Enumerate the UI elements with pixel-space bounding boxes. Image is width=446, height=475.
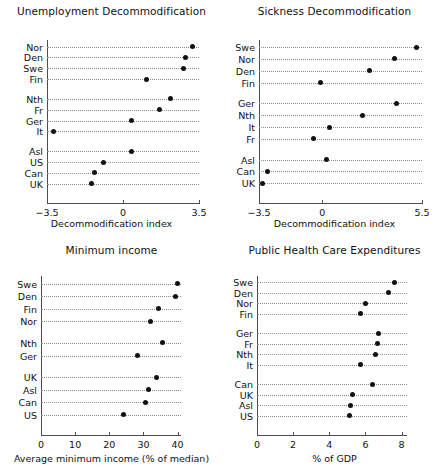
- grid-row: US: [47, 162, 199, 163]
- data-point-den: [367, 68, 372, 73]
- data-point-uk: [350, 392, 355, 397]
- panel-title: Public Health Care Expenditures: [223, 244, 446, 257]
- data-point-can: [265, 169, 270, 174]
- x-tick: [109, 432, 110, 436]
- grid-row: Fin: [259, 83, 422, 84]
- row-label-us: US: [240, 412, 253, 422]
- x-tick: [329, 432, 330, 436]
- grid-row: Den: [47, 57, 199, 58]
- row-label-nor: Nor: [238, 55, 255, 65]
- grid-row: US: [41, 415, 181, 416]
- data-point-uk: [154, 375, 159, 380]
- grid-row: Fr: [259, 139, 422, 140]
- data-point-it: [327, 125, 332, 130]
- x-tick: [322, 200, 323, 204]
- grid-row: Nor: [259, 59, 422, 60]
- x-tick-label: 4: [326, 439, 332, 450]
- data-point-asl: [146, 387, 151, 392]
- row-label-fr: Fr: [244, 340, 253, 350]
- y-axis-line: [47, 40, 48, 204]
- x-axis-line: [259, 203, 422, 204]
- data-point-swe: [181, 66, 186, 71]
- row-label-can: Can: [237, 167, 255, 177]
- row-label-us: US: [30, 158, 43, 168]
- row-label-asl: Asl: [23, 386, 37, 396]
- row-label-nor: Nor: [26, 43, 43, 53]
- grid-row: Nth: [47, 99, 199, 100]
- x-tick: [75, 432, 76, 436]
- grid-row: Nor: [47, 47, 199, 48]
- data-point-fin: [144, 77, 149, 82]
- x-tick-label: 6: [362, 439, 368, 450]
- row-label-fin: Fin: [30, 75, 43, 85]
- data-point-nth: [360, 113, 365, 118]
- panel-title: Sickness Decommodification: [223, 5, 446, 18]
- grid-row: Asl: [47, 151, 199, 152]
- y-axis-line: [259, 40, 260, 204]
- panel-title: Minimum income: [0, 244, 223, 257]
- data-point-ger: [135, 353, 140, 358]
- data-point-can: [92, 170, 97, 175]
- data-point-fin: [156, 306, 161, 311]
- x-tick: [143, 432, 144, 436]
- data-point-us: [121, 412, 126, 417]
- row-label-fin: Fin: [24, 305, 37, 315]
- data-point-den: [173, 294, 178, 299]
- row-label-uk: UK: [24, 373, 37, 383]
- row-label-ger: Ger: [236, 329, 253, 339]
- data-point-fr: [157, 107, 162, 112]
- row-label-can: Can: [19, 398, 37, 408]
- grid-row: Nth: [259, 115, 422, 116]
- data-point-nth: [160, 340, 165, 345]
- grid-row: UK: [47, 184, 199, 185]
- data-point-nor: [148, 319, 153, 324]
- grid-row: Fr: [257, 344, 407, 345]
- x-axis-label: Decommodification index: [223, 218, 446, 230]
- data-point-swe: [392, 280, 397, 285]
- panel-minimum-income: Minimum income SweDenFinNorNthGerUKAslCa…: [0, 238, 223, 475]
- x-tick: [293, 432, 294, 436]
- data-point-swe: [414, 45, 419, 50]
- row-label-nor: Nor: [20, 317, 37, 327]
- row-label-swe: Swe: [17, 280, 37, 290]
- grid-row: Fr: [47, 110, 199, 111]
- grid-row: Den: [41, 296, 181, 297]
- grid-row: Asl: [41, 390, 181, 391]
- x-axis-line: [257, 435, 407, 436]
- plot-area: SweNorDenFinGerNthItFrAslCanUK−3.505.5: [259, 40, 422, 204]
- data-point-nor: [363, 301, 368, 306]
- x-tick: [365, 432, 366, 436]
- data-point-swe: [175, 281, 180, 286]
- data-point-nth: [168, 96, 173, 101]
- row-label-nth: Nth: [238, 111, 255, 121]
- grid-row: Fin: [257, 314, 407, 315]
- x-tick: [422, 200, 423, 204]
- x-tick-label: 20: [103, 439, 115, 450]
- row-label-fin: Fin: [242, 79, 255, 89]
- x-tick-label: 0: [38, 439, 44, 450]
- panel-title: Unemployment Decommodification: [0, 5, 223, 18]
- grid-row: Nor: [41, 321, 181, 322]
- data-point-den: [183, 55, 188, 60]
- data-point-us: [101, 160, 106, 165]
- grid-row: Asl: [259, 160, 422, 161]
- panel-unemployment-decommodification: Unemployment Decommodification NorDenSwe…: [0, 0, 223, 237]
- grid-row: Can: [257, 384, 407, 385]
- row-label-can: Can: [25, 169, 43, 179]
- row-label-swe: Swe: [235, 43, 255, 53]
- row-label-swe: Swe: [233, 278, 253, 288]
- x-axis-label: Average minimum income (% of median): [0, 453, 223, 465]
- data-point-asl: [348, 403, 353, 408]
- x-tick-label: 40: [172, 439, 184, 450]
- grid-row: Asl: [257, 405, 407, 406]
- grid-row: Ger: [257, 333, 407, 334]
- row-label-uk: UK: [30, 180, 43, 190]
- grid-row: UK: [257, 395, 407, 396]
- plot-area: NorDenSweFinNthFrGerItAslUSCanUK−3.503.5: [47, 40, 199, 204]
- row-label-nth: Nth: [236, 350, 253, 360]
- grid-row: Can: [47, 173, 199, 174]
- row-label-it: It: [248, 123, 255, 133]
- row-label-fr: Fr: [34, 106, 43, 116]
- data-point-uk: [260, 181, 265, 186]
- row-label-uk: UK: [242, 179, 255, 189]
